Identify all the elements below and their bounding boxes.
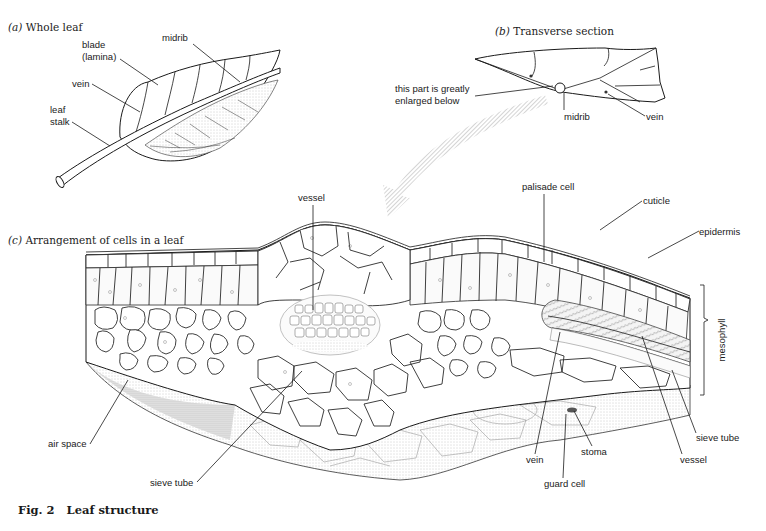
label-epidermis: epidermis (699, 226, 740, 237)
caption-cell-arrangement: (c) Arrangement of cells in a leaf (8, 234, 184, 246)
label-vein-b: vein (646, 111, 663, 122)
enlargement-arrow (383, 95, 548, 218)
label-cuticle: cuticle (643, 195, 670, 206)
label-midrib-a: midrib (162, 32, 188, 43)
leader-blade-a (120, 59, 158, 85)
label-sieve-tube-left: sieve tube (150, 477, 193, 488)
leaf-structure-figure: (a) Whole leaf midrib b (0, 0, 766, 531)
panel-whole-leaf: (a) Whole leaf midrib b (8, 21, 280, 189)
leader-air-space (90, 380, 128, 444)
leader-enlarged (475, 86, 553, 96)
vascular-bundle (280, 295, 380, 355)
panel-cell-arrangement: (c) Arrangement of cells in a leaf (8, 181, 740, 489)
label-leaf-a: leaf (50, 104, 66, 115)
label-mesophyll: mesophyll (716, 319, 727, 362)
label-stalk-a: stalk (50, 116, 70, 127)
caption-transverse-section: (b) Transverse section (495, 25, 614, 37)
leader-epidermis (648, 231, 699, 258)
whole-leaf-drawing (54, 50, 280, 189)
label-blade-a: blade (82, 39, 105, 50)
label-vein-c: vein (526, 454, 543, 465)
caption-whole-leaf: (a) Whole leaf (8, 21, 83, 33)
label-vessel-right: vessel (680, 454, 707, 465)
label-vessel-top: vessel (298, 192, 325, 203)
label-palisade-cell: palisade cell (522, 181, 574, 192)
label-sieve-tube-right: sieve tube (696, 432, 739, 443)
label-lamina-a: (lamina) (82, 51, 116, 62)
label-vein-a: vein (72, 78, 89, 89)
label-enlarged-line2: enlarged below (395, 95, 460, 106)
leader-stalk-a (72, 122, 110, 146)
cross-section-drawing (86, 222, 690, 480)
stoma-pore (567, 408, 577, 413)
label-guard-cell: guard cell (544, 478, 585, 489)
mesophyll-bracket (700, 285, 708, 395)
palisade-layer-left (86, 265, 258, 305)
label-air-space: air space (48, 438, 87, 449)
label-midrib-b: midrib (564, 111, 590, 122)
figure-title: Fig. 2 Leaf structure (18, 503, 159, 517)
label-enlarged-line1: this part is greatly (395, 83, 470, 94)
leader-cuticle (600, 201, 642, 230)
label-stoma: stoma (581, 446, 608, 457)
transverse-section-drawing (475, 48, 665, 102)
